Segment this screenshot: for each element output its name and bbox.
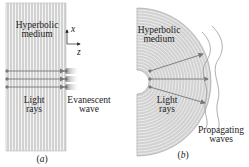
evanescent-wave-region-2 xyxy=(66,76,80,82)
axis-x-label: x xyxy=(71,25,75,34)
panel-b-rays-label: Light rays xyxy=(152,96,182,114)
evanescent-wave-label: Evanescent wave xyxy=(66,96,112,114)
label-line: medium xyxy=(135,35,183,44)
panel-b-medium-label: Hyperbolic medium xyxy=(135,26,183,44)
evanescent-wave-region-1 xyxy=(66,68,80,74)
caption-a: (a) xyxy=(30,155,54,164)
axis-z-label: z xyxy=(77,48,81,57)
propagating-waves-label: Propagating waves xyxy=(194,126,248,144)
label-line: wave xyxy=(66,105,112,114)
label-line: rays xyxy=(16,105,52,114)
label-line: medium xyxy=(10,30,64,39)
caption-b: (b) xyxy=(171,151,195,160)
evanescent-wave-region-3 xyxy=(66,84,80,90)
panel-a-medium-label: Hyperbolic medium xyxy=(10,21,64,39)
panel-a-rays-label: Light rays xyxy=(16,96,52,114)
label-line: rays xyxy=(152,105,182,114)
label-line: waves xyxy=(194,135,248,144)
